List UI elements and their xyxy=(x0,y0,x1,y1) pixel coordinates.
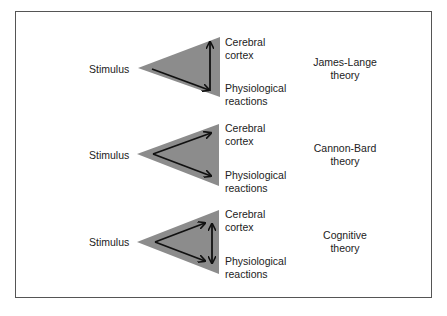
theory-title-line1: Cognitive xyxy=(300,229,390,242)
theory-title: James-Lange theory xyxy=(300,56,390,82)
cognitive-diagram xyxy=(137,210,219,274)
cortex-label-line1: Cerebral xyxy=(225,208,265,221)
stimulus-label: Stimulus xyxy=(89,236,129,249)
theory-title-line2: theory xyxy=(300,69,390,82)
physio-label-line2: reactions xyxy=(225,268,268,281)
cortex-label-line2: cortex xyxy=(225,49,254,62)
physio-label-line2: reactions xyxy=(225,95,268,108)
triangle xyxy=(137,124,219,186)
stimulus-label: Stimulus xyxy=(89,63,129,76)
theory-title: Cognitive theory xyxy=(300,229,390,255)
cortex-label-line2: cortex xyxy=(225,221,254,234)
theory-title-line1: Cannon-Bard xyxy=(300,142,390,155)
stimulus-label: Stimulus xyxy=(89,149,129,162)
cannon-bard-diagram xyxy=(137,124,219,186)
theory-title-line2: theory xyxy=(300,242,390,255)
theory-title: Cannon-Bard theory xyxy=(300,142,390,168)
triangle xyxy=(137,210,219,274)
james-lange-diagram xyxy=(138,37,220,97)
theory-title-line2: theory xyxy=(300,155,390,168)
physio-label-line1: Physiological xyxy=(225,82,286,95)
triangle xyxy=(138,37,220,97)
cortex-label-line1: Cerebral xyxy=(225,36,265,49)
theory-title-line1: James-Lange xyxy=(300,56,390,69)
cortex-label-line1: Cerebral xyxy=(225,122,265,135)
cortex-label-line2: cortex xyxy=(225,135,254,148)
physio-label-line2: reactions xyxy=(225,182,268,195)
physio-label-line1: Physiological xyxy=(225,169,286,182)
physio-label-line1: Physiological xyxy=(225,255,286,268)
